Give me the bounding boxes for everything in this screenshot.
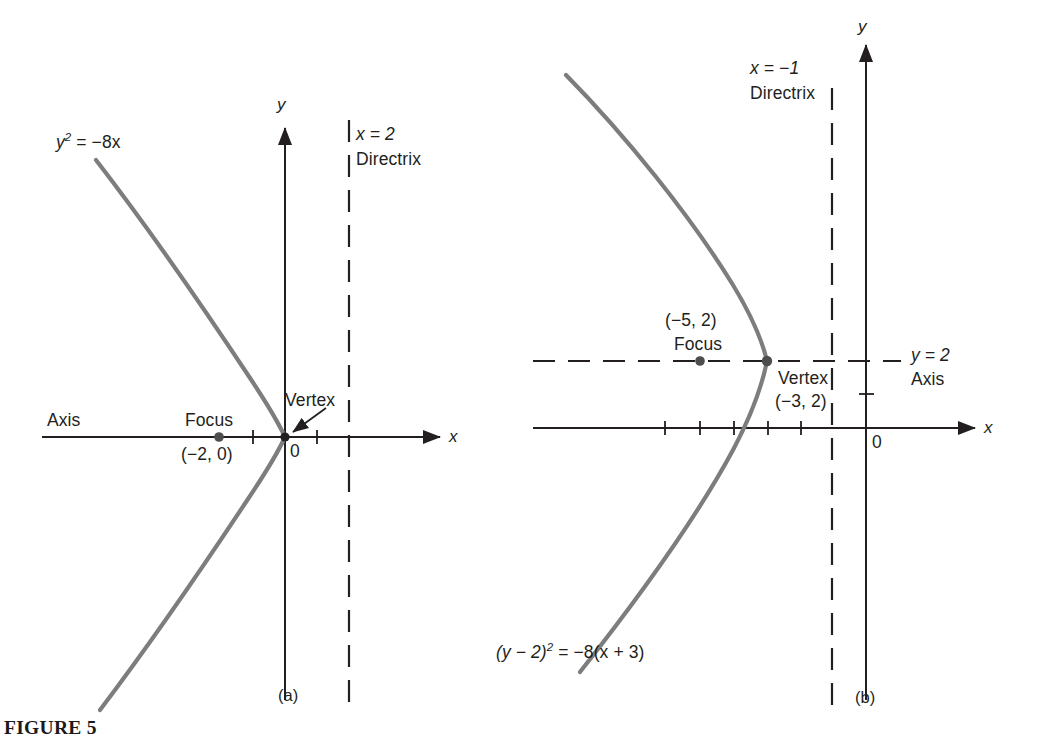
panel-a-directrix-label: Directrix <box>356 149 421 170</box>
panel-b-vertex-label: Vertex <box>778 368 828 389</box>
panel-b-graph <box>533 45 975 712</box>
panel-b-origin-label: 0 <box>872 432 882 453</box>
panel-b-focus-dot <box>695 356 705 366</box>
panel-a-label: (a) <box>278 686 298 705</box>
figure-caption: FIGURE 5 <box>4 717 97 739</box>
panel-b-equation-base: (y − 2) <box>496 642 547 662</box>
panel-b-focus-point: (−5, 2) <box>665 310 717 331</box>
panel-a-graph <box>42 120 440 715</box>
panel-a-parabola-curve <box>96 160 285 710</box>
panel-b-axis-equation: y = 2 <box>911 345 950 366</box>
panel-a-equation: y2 = −8x <box>56 131 121 152</box>
panel-b-label: (b) <box>855 688 875 707</box>
panel-b-equation: (y − 2)2 = −8(x + 3) <box>496 641 644 662</box>
panel-a-vertex-label: Vertex <box>285 390 335 411</box>
panel-a-origin-label: 0 <box>290 441 300 462</box>
panel-b-x-axis-name: x <box>984 418 993 438</box>
panel-b-directrix-label: Directrix <box>750 83 815 104</box>
panel-b-directrix-equation: x = −1 <box>750 58 799 79</box>
panel-a-focus-label: Focus <box>185 410 233 431</box>
figure-root: y2 = −8x Axis Focus (−2, 0) Vertex 0 x y… <box>0 0 1042 753</box>
panel-a-directrix-equation: x = 2 <box>356 124 395 145</box>
panel-a-vertex-dot <box>280 432 289 441</box>
panel-a-y-axis-name: y <box>277 95 286 115</box>
panel-b-vertex-point: (−3, 2) <box>775 391 827 412</box>
panel-a-x-axis-name: x <box>449 427 458 447</box>
panel-b-parabola-curve <box>566 75 767 672</box>
panel-a-equation-base: y <box>56 132 65 152</box>
panel-a-focus-dot <box>214 432 224 442</box>
panel-b-equation-rest: = −8(x + 3) <box>553 642 644 662</box>
panel-b-y-axis-name: y <box>858 17 867 37</box>
panel-a-equation-rest: = −8x <box>71 132 120 152</box>
panel-a-axis-label: Axis <box>47 410 80 431</box>
panel-a-focus-point: (−2, 0) <box>181 444 233 465</box>
panel-b-focus-label: Focus <box>674 334 722 355</box>
panel-b-vertex-dot <box>762 356 772 366</box>
panel-a-vertex-pointer <box>293 408 326 432</box>
panel-b-axis-label: Axis <box>911 369 944 390</box>
